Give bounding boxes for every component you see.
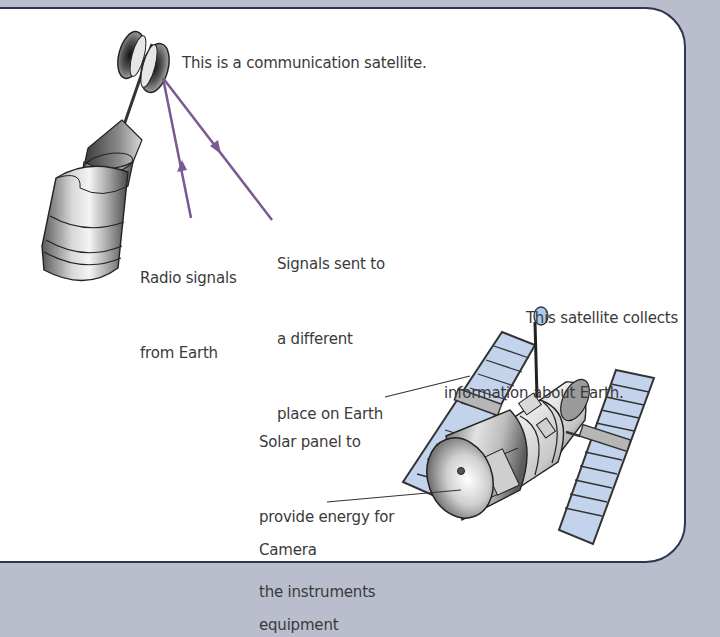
signal-in-label-line: Radio signals [140,266,237,291]
signal-out-label-line: Signals sent to [277,252,385,277]
communication-satellite-caption: This is a communication satellite. [182,51,427,76]
signal-out-label-line: a different [277,327,385,352]
signal-lines [163,78,272,220]
camera-label: Camera equipment [259,488,338,637]
observation-caption-line: information about Earth. [444,381,712,406]
camera-label-line: equipment [259,613,338,637]
observation-caption-line: This satellite collects [492,306,712,331]
signal-in-label-line: from Earth [140,341,237,366]
satellite-body [42,166,128,280]
signal-in-label: Radio signals from Earth [140,216,237,391]
signal-in-line [163,78,191,218]
solar-panel-label-line: Solar panel to [259,430,394,455]
observation-satellite-caption: This satellite collects information abou… [474,256,712,431]
camera-label-line: Camera [259,538,338,563]
